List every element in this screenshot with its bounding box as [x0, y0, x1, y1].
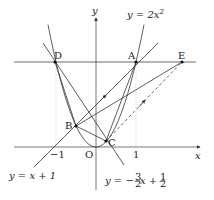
label-point-B: B: [65, 120, 72, 131]
origin-label: O: [85, 149, 93, 160]
parabola-label: y = 2x2: [126, 8, 164, 20]
arrow-on-AB: [100, 95, 106, 101]
line-DC-label: y = −: [104, 175, 134, 186]
label-point-D: D: [54, 50, 62, 61]
line-DC-label-mid: x +: [140, 175, 157, 186]
segment-DB: [55, 62, 76, 126]
arrow-on-CE: [139, 100, 145, 107]
coordinate-diagram: D A E B C y x O −1 1 y = 2x2 y = x + 1 y…: [0, 0, 214, 200]
line-DC-label-prefix: y = −: [104, 175, 134, 186]
line-DC-frac2-den: 2: [160, 178, 166, 189]
y-axis-label: y: [91, 5, 98, 16]
line-AB-label: y = x + 1: [8, 170, 56, 181]
parabola-label-exp: 2: [158, 8, 164, 16]
label-point-C: C: [108, 137, 116, 148]
segment-AC: [106, 62, 136, 141]
point-B: [74, 124, 77, 127]
x-axis-label: x: [195, 150, 201, 161]
label-point-E: E: [178, 50, 185, 61]
tick-label-neg1: −1: [50, 149, 65, 160]
parabola-label-main: y = 2x: [126, 9, 160, 20]
label-point-A: A: [127, 50, 136, 61]
tick-label-pos1: 1: [133, 149, 139, 160]
